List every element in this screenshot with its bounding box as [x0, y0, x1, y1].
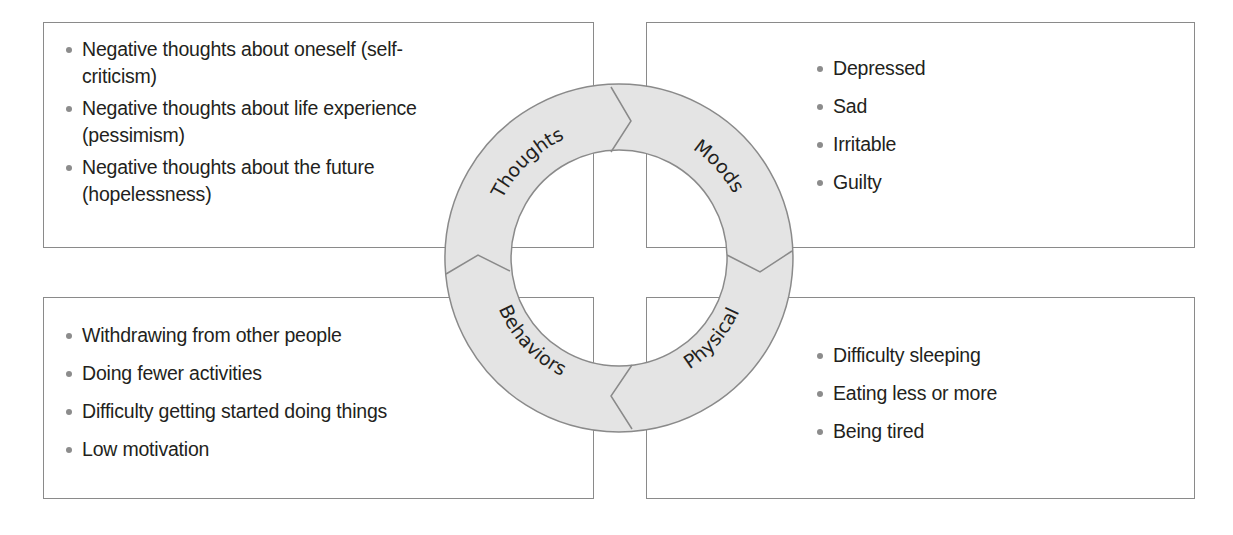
ring-shape	[445, 84, 793, 432]
cycle-ring: Thoughts Moods Physical Behaviors	[0, 0, 1233, 535]
